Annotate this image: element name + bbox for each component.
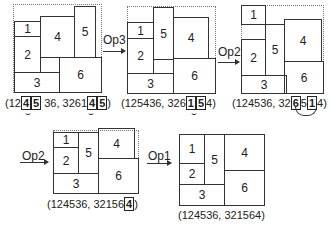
swap-arrow-icon: ⌣ [88,108,94,119]
op-label-3: Op2 [22,149,45,163]
room-2: 2 [179,163,205,185]
arrow-icon [218,62,239,63]
room-2: 2 [241,39,266,76]
room-3: 3 [14,72,60,93]
room-5: 5 [265,24,285,76]
room-6: 6 [173,58,216,94]
room-4: 4 [173,17,209,59]
room-3: 3 [241,75,287,94]
room-1: 1 [241,5,266,25]
room-6: 6 [98,158,139,194]
room-4: 4 [98,128,135,159]
room-6: 6 [284,61,324,94]
room-4: 4 [284,19,322,62]
room-1: 1 [14,21,41,37]
caption-5: (124536, 321564) [178,209,265,221]
room-1: 1 [53,132,79,148]
swap-arrow-icon: ⌣ [25,108,31,119]
op-label-2: Op2 [218,45,241,59]
room-3: 3 [127,73,174,94]
room-2: 2 [53,147,79,174]
room-1: 1 [127,22,154,39]
arrow-icon [147,163,171,164]
room-2: 2 [127,38,154,74]
room-5: 5 [153,7,174,60]
swap-arrow-icon [295,107,317,116]
room-5: 5 [78,132,99,174]
swap-arrow-icon: ⌣ [191,108,197,119]
caption-4: (124536, 321564) [47,198,138,210]
caption-2: (125436, 326154) [121,97,216,109]
room-4: 4 [224,134,265,171]
room-6: 6 [59,57,102,93]
room-3: 3 [179,184,225,206]
room-5: 5 [204,134,225,185]
empty-space [40,57,60,73]
arrow-icon [20,162,48,163]
room-2: 2 [14,36,41,73]
caption-1: (1245 36, 326145) [5,97,111,109]
room-3: 3 [53,173,99,194]
room-1: 1 [179,134,205,164]
arrow-icon [103,51,125,52]
room-6: 6 [224,170,265,206]
room-5: 5 [74,6,96,58]
room-4: 4 [40,16,75,58]
op-label-1: Op3 [103,33,126,47]
